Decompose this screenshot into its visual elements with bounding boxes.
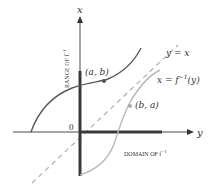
point-ba-label: (b, a) — [135, 100, 159, 110]
range-label: RANGE OF f−1 — [62, 49, 70, 88]
horizontal-axis-arrow-icon — [187, 129, 194, 135]
identity-line — [32, 45, 178, 183]
range-label-main: RANGE OF f — [64, 55, 70, 88]
vertical-axis-arrow-icon — [77, 16, 83, 23]
domain-label: DOMAIN OF f−1 — [124, 149, 167, 157]
origin-label: 0 — [69, 122, 74, 132]
point-ba-marker — [128, 104, 132, 108]
curve-f-inverse — [80, 70, 160, 175]
range-label-sup: −1 — [62, 49, 67, 55]
domain-label-main: DOMAIN OF f — [124, 151, 161, 157]
horizontal-axis-label: y — [196, 127, 203, 138]
inverse-curve-label: x = f−1(y) — [157, 73, 200, 85]
point-ab-marker — [102, 79, 106, 83]
vertical-axis-label: x — [77, 4, 83, 15]
domain-label-sup: −1 — [161, 149, 167, 154]
inverse-curve-label-tail: (y) — [188, 75, 201, 85]
identity-line-label: y = x — [165, 48, 189, 58]
inverse-curve-label-main: x = f — [157, 75, 180, 85]
inverse-curve-label-sup: −1 — [179, 73, 188, 80]
point-ab-label: (a, b) — [85, 67, 109, 77]
inverse-function-diagram: x y 0 (a, b) (b, a) y = x x = f−1(y) DOM… — [0, 0, 214, 192]
curve-f — [31, 48, 141, 132]
